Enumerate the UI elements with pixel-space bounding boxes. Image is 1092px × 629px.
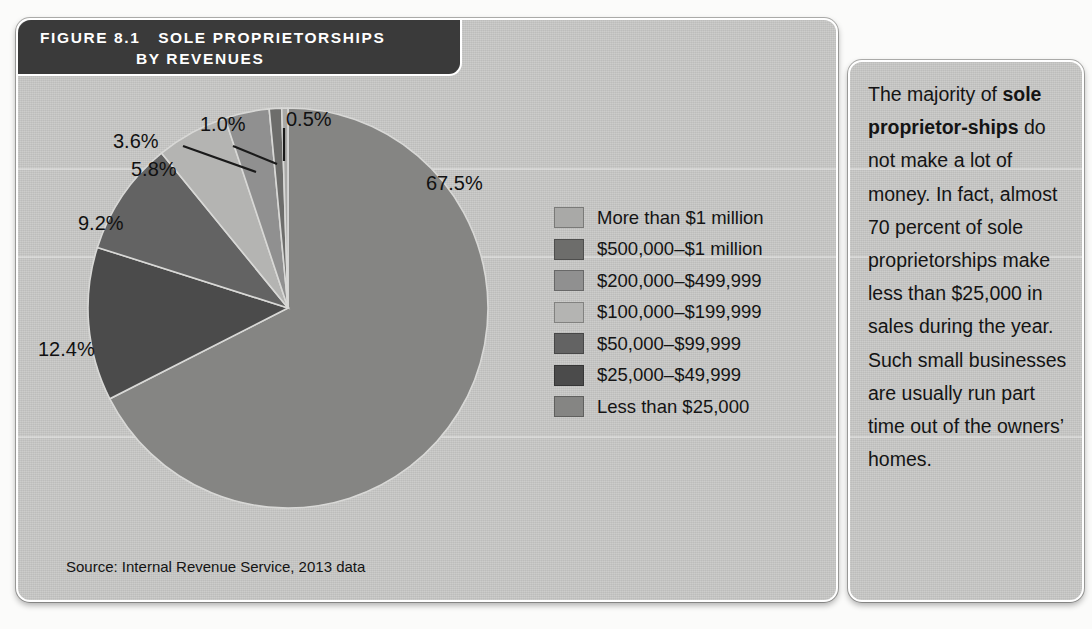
legend-swatch [554,302,584,323]
legend-label: More than $1 million [597,207,764,229]
pie-label-67-5: 67.5% [426,172,483,195]
legend-label: $25,000–$49,999 [597,364,741,386]
legend-label: $200,000–$499,999 [597,270,762,292]
legend-item: $500,000–$1 million [554,234,764,266]
legend-label: Less than $25,000 [597,396,749,418]
legend-label: $100,000–$199,999 [597,301,762,323]
pie-label-12-4: 12.4% [38,338,95,361]
legend-item: $100,000–$199,999 [554,297,764,329]
caption-text: The majority of sole proprietor-ships do… [868,78,1068,476]
legend-swatch [554,333,584,354]
legend-item: $200,000–$499,999 [554,265,764,297]
caption-part2: do not make a lot of money. In fact, alm… [868,116,1066,470]
pie-label-3-6: 3.6% [113,130,159,153]
source-note: Source: Internal Revenue Service, 2013 d… [66,558,365,575]
legend-label: $50,000–$99,999 [597,333,741,355]
figure-title-bar: FIGURE 8.1 SOLE PROPRIETORSHIPS BY REVEN… [18,20,462,76]
legend-swatch [554,270,584,291]
figure-title-line1: SOLE PROPRIETORSHIPS [158,29,385,46]
legend-swatch [554,365,584,386]
caption-panel: The majority of sole proprietor-ships do… [848,60,1084,602]
figure-title-line2: BY REVENUES [40,48,450,69]
legend-item: $50,000–$99,999 [554,328,764,360]
pie-label-0-5: 0.5% [286,108,332,131]
chart-area: 0.5% 1.0% 3.6% 5.8% 9.2% 12.4% 67.5% Mor… [18,20,836,600]
figure-number: FIGURE 8.1 [40,29,140,46]
legend: More than $1 million$500,000–$1 million$… [554,202,764,423]
legend-item: $25,000–$49,999 [554,360,764,392]
legend-item: More than $1 million [554,202,764,234]
legend-item: Less than $25,000 [554,391,764,423]
pie-label-9-2: 9.2% [78,212,124,235]
legend-swatch [554,239,584,260]
caption-part1: The majority of [868,83,1002,105]
legend-swatch [554,396,584,417]
figure-panel: 0.5% 1.0% 3.6% 5.8% 9.2% 12.4% 67.5% Mor… [16,18,838,602]
legend-label: $500,000–$1 million [597,238,763,260]
pie-label-1-0: 1.0% [200,113,246,136]
legend-swatch [554,207,584,228]
figure-title: FIGURE 8.1 SOLE PROPRIETORSHIPS BY REVEN… [40,27,450,69]
pie-label-5-8: 5.8% [131,158,177,181]
